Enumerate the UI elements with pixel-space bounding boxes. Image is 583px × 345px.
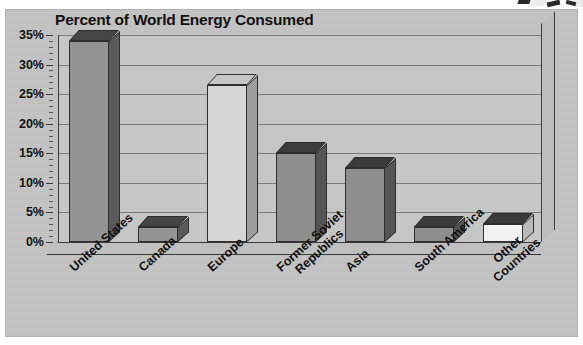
gridline — [58, 35, 541, 36]
y-axis-minor-tick — [49, 195, 53, 196]
y-axis-tick-label: 10% — [19, 176, 44, 190]
gridline — [58, 65, 541, 66]
y-axis-tick-label: 25% — [19, 87, 44, 101]
y-axis-minor-tick — [49, 82, 53, 83]
y-axis-minor-tick — [49, 136, 53, 137]
y-axis-minor-tick — [49, 141, 53, 142]
scan-artifact-icon — [547, 0, 561, 7]
bar-column — [69, 41, 109, 242]
right-wall-3d — [541, 11, 555, 242]
scan-artifact-icon — [517, 0, 530, 4]
y-axis-minor-tick — [49, 106, 53, 107]
y-axis-tick-mark — [46, 35, 53, 36]
bar-front-face — [276, 153, 316, 242]
scan-artifact-icon — [566, 0, 577, 6]
y-axis-minor-tick — [49, 130, 53, 131]
y-axis-tick-mark — [46, 212, 53, 213]
bar-front-face — [69, 41, 109, 242]
y-axis-minor-tick — [49, 236, 53, 237]
bar-front-face — [207, 85, 247, 242]
y-axis-tick-mark — [46, 94, 53, 95]
y-axis-minor-tick — [49, 147, 53, 148]
y-axis-minor-tick — [49, 100, 53, 101]
y-axis-minor-tick — [49, 189, 53, 190]
bar-side-face — [385, 158, 396, 242]
y-axis-minor-tick — [49, 201, 53, 202]
scan-artifact-icon — [575, 0, 583, 7]
y-axis-tick-label: 35% — [19, 28, 44, 42]
y-axis-tick-label: 5% — [26, 205, 44, 219]
y-axis-tick-mark — [46, 183, 53, 184]
y-axis-minor-tick — [49, 59, 53, 60]
screenshot-root: Percent of World Energy Consumed 35%30%2… — [0, 0, 583, 345]
y-axis-minor-tick — [49, 159, 53, 160]
y-axis-minor-tick — [49, 47, 53, 48]
y-axis-minor-tick — [49, 88, 53, 89]
gridline — [58, 124, 541, 125]
bar-side-face — [109, 31, 120, 242]
y-axis-tick-label: 0% — [26, 235, 44, 249]
y-axis-tick-mark — [46, 153, 53, 154]
y-axis-minor-tick — [49, 171, 53, 172]
y-axis-tick-mark — [46, 65, 53, 66]
bar-column — [207, 85, 247, 242]
y-axis-minor-tick — [49, 224, 53, 225]
bar-column — [276, 153, 316, 242]
bar-side-face — [247, 75, 258, 242]
y-axis-minor-tick — [49, 165, 53, 166]
scan-artifact-icon — [530, 0, 548, 6]
plot-area — [58, 35, 541, 242]
y-axis: 35%30%25%20%15%10%5%0% — [0, 0, 58, 345]
chart-title: Percent of World Energy Consumed — [55, 11, 314, 29]
y-axis-minor-tick — [49, 112, 53, 113]
y-axis-minor-tick — [49, 41, 53, 42]
y-axis-tick-label: 30% — [19, 58, 44, 72]
y-axis-tick-label: 15% — [19, 146, 44, 160]
y-axis-minor-tick — [49, 230, 53, 231]
y-axis-minor-tick — [49, 53, 53, 54]
y-axis-minor-tick — [49, 207, 53, 208]
y-axis-minor-tick — [49, 177, 53, 178]
y-axis-minor-tick — [49, 118, 53, 119]
y-axis-tick-label: 20% — [19, 117, 44, 131]
gridline — [58, 94, 541, 95]
y-axis-minor-tick — [49, 218, 53, 219]
y-axis-tick-mark — [46, 124, 53, 125]
y-axis-tick-mark — [46, 242, 53, 243]
y-axis-minor-tick — [49, 70, 53, 71]
y-axis-line — [58, 35, 59, 242]
y-axis-minor-tick — [49, 76, 53, 77]
